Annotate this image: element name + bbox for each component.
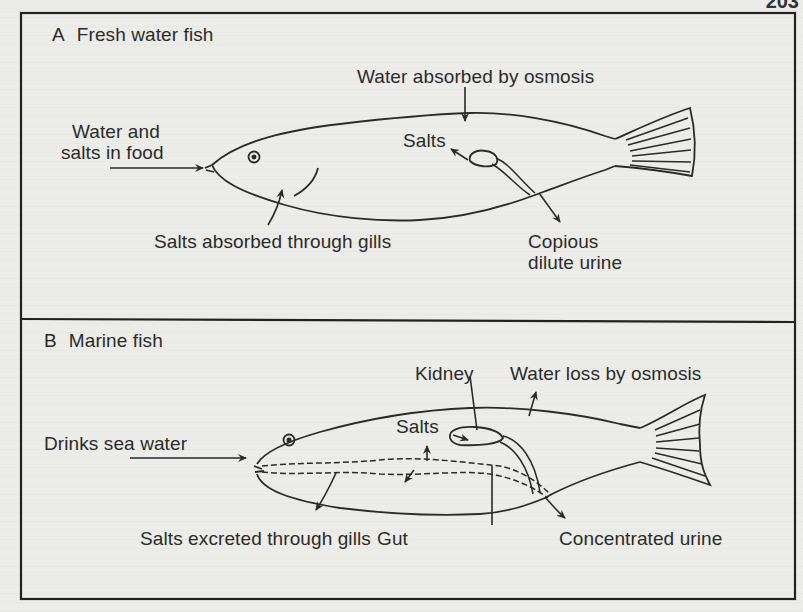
- marine-fish-drawing: [254, 395, 710, 515]
- label-water-loss-osmosis: Water loss by osmosis: [510, 363, 701, 384]
- label-water-salts-food-line1: Water and: [72, 121, 160, 142]
- freshwater-arrows: [110, 87, 560, 225]
- panel-b-letter: B: [44, 330, 57, 351]
- label-salts-a: Salts: [403, 130, 446, 151]
- label-drinks-sea-water: Drinks sea water: [44, 433, 187, 454]
- label-dilute-urine: dilute urine: [528, 252, 622, 273]
- label-salts-absorbed-gills: Salts absorbed through gills: [154, 231, 391, 252]
- label-water-salts-food-line2: salts in food: [61, 142, 164, 163]
- label-salts-excreted-gills: Salts excreted through gills: [140, 528, 371, 549]
- label-water-absorbed-osmosis: Water absorbed by osmosis: [357, 66, 594, 87]
- osmoregulation-figure: [0, 0, 803, 612]
- figure-frame: [21, 13, 795, 599]
- panel-a-letter: A: [52, 24, 65, 45]
- label-salts-b: Salts: [396, 416, 439, 437]
- panel-a-title-text: Fresh water fish: [77, 24, 214, 45]
- panel-b-title-text: Marine fish: [69, 330, 163, 351]
- marine-arrows: [130, 376, 565, 525]
- label-copious: Copious: [528, 231, 598, 252]
- label-kidney: Kidney: [415, 363, 474, 384]
- label-concentrated-urine: Concentrated urine: [559, 528, 722, 549]
- label-gut: Gut: [377, 528, 408, 549]
- panel-b-title: BMarine fish: [44, 330, 163, 351]
- panel-a-title: AFresh water fish: [52, 24, 214, 45]
